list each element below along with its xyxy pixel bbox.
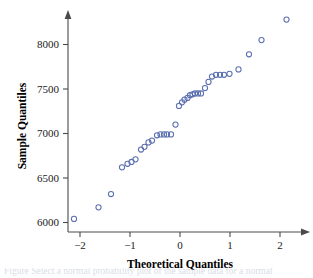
x-tick-label: 0 (177, 239, 183, 251)
data-point (246, 52, 251, 57)
figure-caption-text: Figure Select a normal probability plot … (4, 268, 313, 276)
y-tick-label: 7000 (37, 127, 60, 139)
y-axis (65, 10, 72, 232)
x-tick-label: −1 (124, 239, 136, 251)
data-point (71, 216, 76, 221)
x-axis (68, 229, 310, 236)
data-point (133, 157, 138, 162)
plot-area: 8000 7500 7000 6500 6000 −2 −1 0 1 (0, 0, 313, 278)
y-axis-arrow-icon (65, 10, 72, 19)
x-axis-arrow-icon (301, 229, 310, 236)
x-tick-label: −2 (74, 239, 86, 251)
data-point (236, 67, 241, 72)
x-tick-label: 1 (227, 239, 233, 251)
data-point (96, 205, 101, 210)
data-point (206, 79, 211, 84)
y-tick-group: 8000 7500 7000 6500 6000 (37, 38, 68, 228)
figure-caption-strip: Figure Select a normal probability plot … (0, 268, 313, 278)
data-point (227, 71, 232, 76)
y-tick-label: 7500 (37, 83, 60, 95)
y-tick-label: 6000 (37, 216, 60, 228)
data-point (284, 17, 289, 22)
data-point (142, 144, 147, 149)
data-point (108, 191, 113, 196)
x-tick-group: −2 −1 0 1 2 (74, 232, 283, 251)
data-point (154, 133, 159, 138)
data-point (119, 165, 124, 170)
chart-canvas: 8000 7500 7000 6500 6000 −2 −1 0 1 (0, 0, 313, 278)
y-axis-title: Sample Quantiles (16, 82, 29, 169)
data-point (173, 122, 178, 127)
data-point (202, 86, 207, 91)
x-tick-label: 2 (277, 239, 283, 251)
data-point (138, 147, 143, 152)
qq-plot-figure: 8000 7500 7000 6500 6000 −2 −1 0 1 (0, 0, 313, 278)
data-point (259, 37, 264, 42)
data-point-series (71, 17, 289, 222)
y-tick-label: 8000 (37, 38, 60, 50)
y-tick-label: 6500 (37, 172, 60, 184)
